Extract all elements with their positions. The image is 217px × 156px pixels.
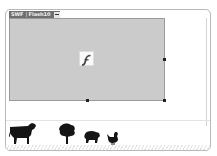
window-bottom-edge (6, 145, 210, 150)
cow-silhouette-icon[interactable] (9, 121, 37, 145)
tree-silhouette-icon[interactable] (58, 123, 77, 144)
pig-silhouette-icon[interactable] (83, 130, 101, 144)
chicken-silhouette-icon[interactable] (107, 131, 119, 145)
minus-icon[interactable] (54, 12, 60, 18)
tab-flash10[interactable]: Flash10 (27, 11, 53, 18)
resize-handle-bottom-right[interactable] (163, 99, 166, 102)
resize-handle-bottom-middle[interactable] (86, 99, 89, 102)
flash-player-icon (79, 51, 94, 66)
window-inner-border (206, 18, 207, 126)
tab-swf[interactable]: SWF (9, 11, 26, 18)
resize-handle-right-middle[interactable] (163, 58, 166, 61)
document-tab-bar: SWF Flash10 (9, 11, 60, 18)
